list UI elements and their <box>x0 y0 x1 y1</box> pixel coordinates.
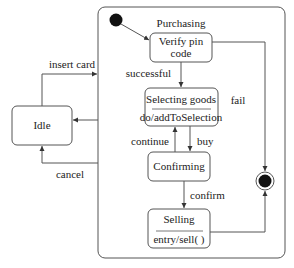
state-idle-label: Idle <box>33 119 50 131</box>
transition-insert-card <box>42 74 97 106</box>
state-selling-action: entry/sell( ) <box>153 233 204 246</box>
transition-continue-label: continue <box>131 135 169 147</box>
transition-insert-card-label: insert card <box>49 58 96 70</box>
transition-cancel-label: cancel <box>56 168 84 180</box>
state-confirming-label: Confirming <box>153 160 205 172</box>
final-state <box>256 172 274 190</box>
composite-state-label: Purchasing <box>157 17 206 29</box>
state-confirming: Confirming <box>148 152 210 181</box>
transition-fail-label: fail <box>231 94 246 106</box>
transition-cancel <box>42 146 98 163</box>
state-verify-label-2: code <box>171 47 192 59</box>
state-diagram: Purchasing Verify pin code successful Se… <box>0 0 294 268</box>
transition-confirm-label: confirm <box>190 189 225 201</box>
transition-buy-label: buy <box>197 135 214 147</box>
state-selling-label: Selling <box>163 213 195 225</box>
state-selling: Selling entry/sell( ) <box>148 209 210 248</box>
state-selecting-label: Selecting goods <box>146 93 216 105</box>
state-selecting-action: do/addToSelection <box>140 111 223 123</box>
state-selecting-goods: Selecting goods do/addToSelection <box>140 88 223 126</box>
state-verify-label-1: Verify pin <box>159 35 204 47</box>
state-verify-pin-code: Verify pin code <box>150 33 212 62</box>
state-idle: Idle <box>12 106 72 145</box>
initial-state <box>110 14 123 27</box>
transition-successful-label: successful <box>126 67 171 79</box>
